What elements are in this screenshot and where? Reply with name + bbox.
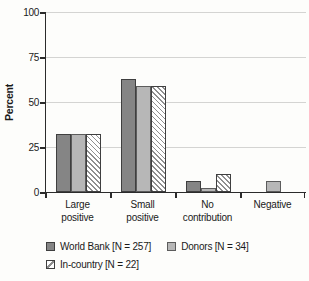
legend-label-0: World Bank [N = 257] bbox=[60, 241, 151, 252]
legend-label-2: In-country [N = 22] bbox=[60, 259, 139, 270]
y-tick-label-0: 0 bbox=[8, 187, 39, 198]
x-tick-mark-0 bbox=[45, 193, 47, 198]
bar-group-1 bbox=[111, 12, 176, 192]
x-category-label-2: Nocontribution bbox=[175, 199, 240, 224]
legend-item-0: World Bank [N = 257] bbox=[46, 241, 151, 252]
x-tick-mark-1 bbox=[110, 193, 112, 198]
bar-series-2-group-0 bbox=[86, 134, 101, 192]
bar-series-2-group-2 bbox=[216, 174, 231, 192]
x-category-label-line: positive bbox=[110, 212, 175, 225]
bar-series-1-group-1 bbox=[136, 86, 151, 192]
legend-item-2: In-country [N = 22] bbox=[46, 259, 139, 270]
legend-label-1: Donors [N = 34] bbox=[181, 241, 248, 252]
bar-series-1-group-3 bbox=[266, 181, 281, 192]
x-tick-mark-2 bbox=[175, 193, 177, 198]
legend-item-1: Donors [N = 34] bbox=[167, 241, 248, 252]
x-category-label-line: Negative bbox=[240, 199, 305, 212]
legend-swatch-2 bbox=[46, 260, 55, 269]
legend-row-0: World Bank [N = 257]Donors [N = 34] bbox=[46, 241, 248, 252]
y-tick-label-50: 50 bbox=[8, 97, 39, 108]
x-category-label-line: Small bbox=[110, 199, 175, 212]
bar-group-3 bbox=[241, 12, 306, 192]
bar-series-0-group-2 bbox=[186, 181, 201, 192]
y-tick-label-100: 100 bbox=[8, 7, 39, 18]
x-category-label-3: Negative bbox=[240, 199, 305, 212]
bar-group-0 bbox=[46, 12, 111, 192]
legend-row-1: In-country [N = 22] bbox=[46, 259, 248, 270]
legend: World Bank [N = 257]Donors [N = 34]In-co… bbox=[46, 241, 248, 270]
bar-group-2 bbox=[176, 12, 241, 192]
bar-series-0-group-0 bbox=[56, 134, 71, 192]
y-tick-label-75: 75 bbox=[8, 52, 39, 63]
x-category-label-line: No bbox=[175, 199, 240, 212]
x-category-label-line: contribution bbox=[175, 212, 240, 225]
bar-series-0-group-1 bbox=[121, 79, 136, 192]
x-category-label-0: Largepositive bbox=[45, 199, 110, 224]
plot-area bbox=[45, 12, 306, 193]
x-tick-mark-4 bbox=[304, 193, 306, 198]
bar-series-1-group-2 bbox=[201, 188, 216, 192]
x-tick-mark-3 bbox=[240, 193, 242, 198]
bar-chart: Percent 0255075100 LargepositiveSmallpos… bbox=[0, 0, 309, 281]
x-category-label-line: positive bbox=[45, 212, 110, 225]
x-category-label-1: Smallpositive bbox=[110, 199, 175, 224]
legend-swatch-0 bbox=[46, 242, 55, 251]
bar-series-1-group-0 bbox=[71, 134, 86, 192]
x-category-label-line: Large bbox=[45, 199, 110, 212]
bar-series-2-group-1 bbox=[151, 86, 166, 192]
y-tick-label-25: 25 bbox=[8, 142, 39, 153]
legend-swatch-1 bbox=[167, 242, 176, 251]
